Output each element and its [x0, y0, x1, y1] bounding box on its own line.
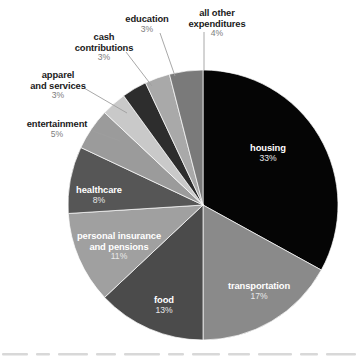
leader-line [126, 52, 152, 86]
leader-line [160, 33, 175, 76]
pie-slice-group [68, 70, 338, 340]
pie-chart-figure: housing33%transportation17%food13%person… [0, 0, 364, 359]
pie-chart-canvas [0, 0, 364, 359]
